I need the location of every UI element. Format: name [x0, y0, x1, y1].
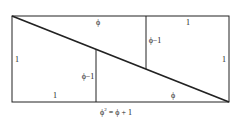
- equation-caption: ϕ2 = ϕ + 1: [100, 107, 132, 117]
- diagonal-line: [12, 16, 229, 102]
- label-bottom-left-one: 1: [53, 92, 57, 100]
- label-top-right-one: 1: [186, 19, 190, 27]
- label-bottom-phi: ϕ: [171, 92, 175, 100]
- label-left-one: 1: [15, 56, 19, 64]
- caption-rhs: = ϕ + 1: [107, 108, 132, 117]
- label-top-phi: ϕ: [96, 19, 100, 27]
- golden-ratio-diagram: [0, 0, 239, 118]
- label-lower-phi-minus-one: ϕ−1: [82, 73, 95, 81]
- label-upper-phi-minus-one: ϕ−1: [149, 37, 162, 45]
- label-right-one: 1: [222, 56, 226, 64]
